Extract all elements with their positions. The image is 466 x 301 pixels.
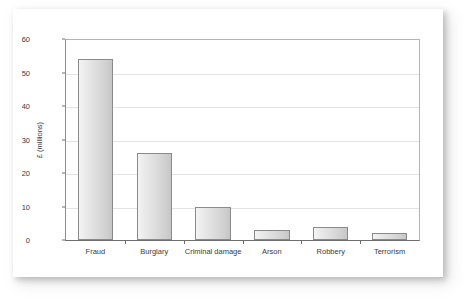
bar[interactable] [313,227,348,240]
chart-card: £ (millions) 0102030405060 FraudBurglary… [13,9,443,277]
bar[interactable] [372,233,407,240]
x-axis-tick-label: Arson [262,247,282,256]
y-axis-title: £ (millions) [35,122,44,158]
y-axis-tick-label: 20 [6,169,30,178]
x-axis-tick-label: Burglary [140,247,168,256]
figure-root: £ (millions) 0102030405060 FraudBurglary… [0,0,466,301]
y-axis-tick-label: 60 [6,35,30,44]
y-axis-tick-label: 10 [6,202,30,211]
bar-slot [66,39,125,240]
x-axis-tick-label: Robbery [317,247,345,256]
bar-slot [301,39,360,240]
bar-slot [184,39,243,240]
y-axis-tick-label: 40 [6,102,30,111]
bar-slot [125,39,184,240]
bar[interactable] [137,153,172,240]
bar-series-cost [66,39,419,240]
bar[interactable] [195,207,230,241]
bar[interactable] [254,230,289,240]
x-axis-tick-mark [243,241,244,244]
y-axis-tick-label: 50 [6,68,30,77]
y-axis-tick-label: 0 [6,236,30,245]
x-axis-tick-mark [125,241,126,244]
x-axis-tick-mark [301,241,302,244]
x-axis-tick-mark [184,241,185,244]
y-axis-tick-label: 30 [6,135,30,144]
x-axis-tick-label: Fraud [86,247,106,256]
bar[interactable] [78,59,113,240]
bar-slot [243,39,302,240]
x-axis-tick-mark [360,241,361,244]
x-axis-tick-label: Terrorism [374,247,405,256]
bar-slot [360,39,419,240]
x-axis-tick-label: Criminal damage [185,247,242,256]
